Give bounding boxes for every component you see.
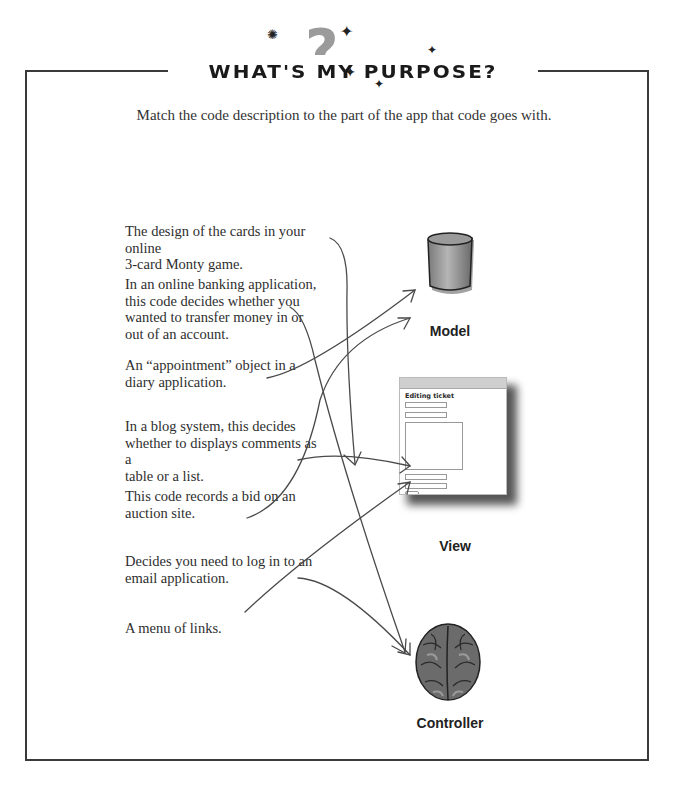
- matching-arrows: [0, 0, 688, 785]
